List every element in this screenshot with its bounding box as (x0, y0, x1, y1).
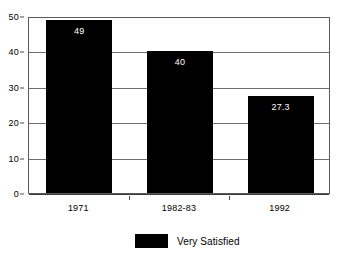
x-tick-mark-2 (229, 196, 230, 200)
y-tick-label-30: 30 (9, 83, 19, 92)
y-tick-label-50: 50 (9, 13, 19, 22)
y-tick-mark-0 (20, 194, 24, 195)
x-tick-label-1971: 1971 (68, 203, 89, 213)
y-tick-mark-30 (20, 87, 24, 88)
bar-1971: 49 (46, 20, 112, 193)
y-tick-label-20: 20 (9, 119, 19, 128)
x-tick-label-1992: 1992 (269, 203, 290, 213)
bar-value-label-1982-83: 40 (147, 57, 213, 67)
legend-label-very-satisfied: Very Satisfied (177, 236, 240, 247)
x-tick-label-1982-83: 1982-83 (162, 203, 196, 213)
legend-swatch-very-satisfied (135, 234, 168, 248)
bar-1982-83: 40 (147, 51, 213, 193)
bar-1992: 27.3 (248, 96, 314, 193)
y-tick-mark-20 (20, 123, 24, 124)
y-tick-mark-10 (20, 158, 24, 159)
y-axis: 01020304050 (0, 17, 24, 194)
bar-value-label-1992: 27.3 (248, 102, 314, 112)
y-tick-mark-50 (20, 17, 24, 18)
bar-chart-figure: 01020304050 494027.3 19711982-831992 Ver… (0, 0, 342, 257)
x-axis: 19711982-831992 (28, 196, 330, 214)
y-tick-mark-40 (20, 52, 24, 53)
y-tick-label-0: 0 (14, 190, 19, 199)
gridline-0 (29, 194, 329, 195)
chart-legend: Very Satisfied (135, 234, 240, 248)
bar-series-very-satisfied: 494027.3 (29, 18, 329, 193)
y-tick-label-40: 40 (9, 48, 19, 57)
y-tick-label-10: 10 (9, 154, 19, 163)
plot-area: 494027.3 (28, 17, 330, 194)
x-tick-mark-1 (129, 196, 130, 200)
bar-value-label-1971: 49 (46, 26, 112, 36)
